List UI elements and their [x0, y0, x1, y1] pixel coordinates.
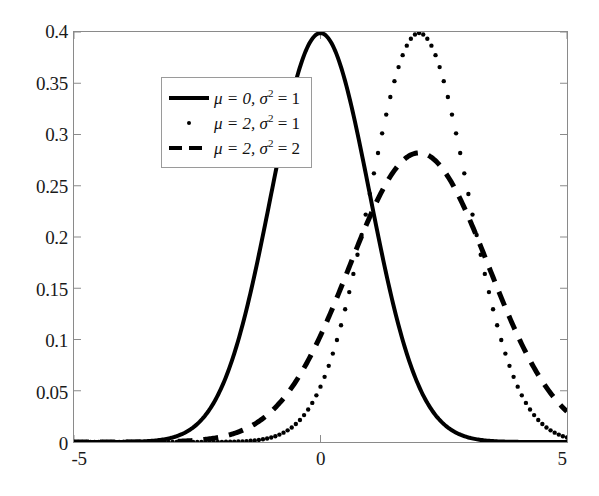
y-tick-label: 0.35: [4, 73, 68, 92]
legend-item-solid: μ = 0, σ2 = 1: [166, 85, 305, 110]
y-tick-label: 0.1: [4, 331, 68, 350]
series-dotted: [74, 32, 567, 442]
plot-area: μ = 0, σ2 = 1μ = 2, σ2 = 1μ = 2, σ2 = 2: [73, 31, 568, 443]
legend-marker-glyph: [169, 146, 209, 150]
curve-canvas: [74, 32, 567, 442]
legend-marker-dotted-icon: [166, 116, 212, 130]
y-tick-label: 0.05: [4, 382, 68, 401]
x-tick-label: -5: [71, 449, 86, 468]
legend-marker-glyph: [187, 121, 191, 125]
y-axis-tick-labels: 00.050.10.150.20.250.30.350.4: [0, 31, 68, 443]
y-tick-label: 0.25: [4, 176, 68, 195]
gaussian-pdf-figure: 00.050.10.150.20.250.30.350.4 μ = 0, σ2 …: [0, 0, 599, 496]
legend-item-label: μ = 2, σ2 = 2: [212, 137, 300, 159]
legend-item-label: μ = 0, σ2 = 1: [212, 87, 300, 109]
series-solid: [74, 33, 567, 442]
y-tick-label: 0.15: [4, 279, 68, 298]
series-dashed: [74, 153, 567, 442]
legend-item-dotted: μ = 2, σ2 = 1: [166, 110, 305, 135]
legend-box: μ = 0, σ2 = 1μ = 2, σ2 = 1μ = 2, σ2 = 2: [161, 77, 312, 168]
legend-marker-glyph: [169, 96, 209, 100]
x-axis-tick-labels: -505: [73, 449, 568, 475]
y-tick-label: 0.3: [4, 125, 68, 144]
x-tick-label: 0: [316, 449, 325, 468]
y-tick-label: 0.4: [4, 22, 68, 41]
y-tick-label: 0: [4, 434, 68, 453]
x-tick-label: 5: [557, 449, 566, 468]
legend-item-dashed: μ = 2, σ2 = 2: [166, 135, 305, 160]
legend-item-label: μ = 2, σ2 = 1: [212, 112, 300, 134]
legend-marker-dashed-icon: [166, 141, 212, 155]
legend-marker-solid-icon: [166, 91, 212, 105]
y-tick-label: 0.2: [4, 228, 68, 247]
